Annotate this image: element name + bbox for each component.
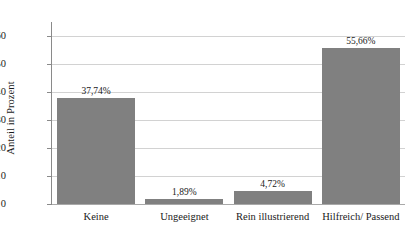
y-axis-tick-label: 0 (0, 199, 6, 209)
bar-value-label: 4,72% (233, 179, 313, 189)
y-axis-tick-mark (47, 148, 51, 149)
bar-chart: Anteil in Prozent 0102030405060 37,74%1,… (0, 0, 420, 236)
bar (234, 191, 312, 204)
plot-area (52, 22, 405, 204)
y-axis-title: Anteil in Prozent (5, 38, 16, 198)
y-axis-tick-mark (47, 120, 51, 121)
y-axis-tick-mark (47, 204, 51, 205)
y-axis-tick-label: 30 (0, 115, 6, 125)
y-axis-tick-label: 40 (0, 87, 6, 97)
x-axis-tick-label: Hilfreich/ Passend (301, 211, 420, 222)
y-axis-tick-mark (47, 36, 51, 37)
bar-value-label: 1,89% (144, 187, 224, 197)
y-axis-tick-label: 10 (0, 171, 6, 181)
y-axis-tick-mark (47, 92, 51, 93)
bar-value-label: 55,66% (321, 36, 401, 46)
bar (322, 48, 400, 204)
y-axis-tick-mark (47, 64, 51, 65)
y-axis-tick-label: 20 (0, 143, 6, 153)
y-axis-tick-label: 60 (0, 31, 6, 41)
y-axis-tick-mark (47, 176, 51, 177)
bar (57, 98, 135, 204)
bar (145, 199, 223, 204)
bar-value-label: 37,74% (56, 86, 136, 96)
y-axis-tick-label: 50 (0, 59, 6, 69)
grid-line (52, 204, 405, 205)
